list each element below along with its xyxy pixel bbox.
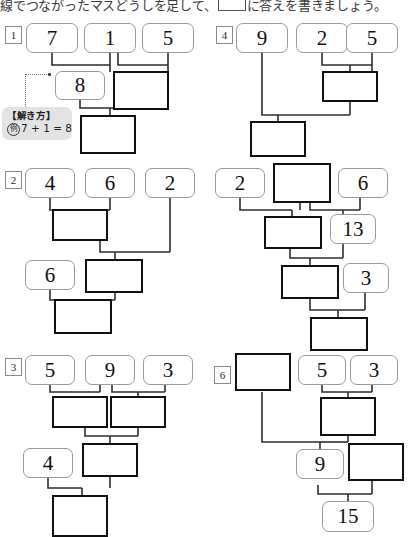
- p4-given-2: 5: [346, 23, 398, 53]
- p2-given-2: 2: [145, 168, 195, 198]
- p6-given-2: 9: [296, 449, 344, 479]
- p2-given-0: 4: [25, 168, 75, 198]
- p5-given-2: 13: [330, 214, 376, 244]
- wire-p1-c: [118, 53, 168, 65]
- p3-answer-1[interactable]: [110, 396, 166, 428]
- instruction-blank-box: [218, 0, 246, 11]
- p5-answer-3[interactable]: [310, 317, 368, 351]
- problem-number-6: 6: [214, 366, 231, 384]
- p4-answer-1[interactable]: [250, 121, 306, 157]
- hint-title: 【解き方】: [7, 110, 67, 121]
- p1-answer-0[interactable]: [113, 71, 169, 110]
- problem-number-2: 2: [5, 171, 22, 189]
- p4-given-1: 2: [296, 23, 348, 53]
- p2-given-1: 6: [85, 168, 135, 198]
- wire-p2-d: [100, 240, 170, 252]
- p5-given-0: 2: [215, 168, 265, 198]
- hint-leader-stem: [25, 74, 26, 107]
- p1-given-0: 7: [26, 23, 78, 53]
- p1-given-2: 5: [142, 23, 194, 53]
- wire-p5-g: [290, 248, 343, 258]
- problem-number-4: 4: [216, 26, 233, 44]
- wire-p4-b: [322, 53, 372, 65]
- p3-given-0: 5: [25, 355, 75, 385]
- p1-answer-1[interactable]: [80, 115, 136, 154]
- p3-given-2: 3: [143, 355, 193, 385]
- instruction-pre: 線でつながったマスどうしを足して、: [0, 0, 217, 13]
- p6-answer-1[interactable]: [320, 397, 376, 436]
- p3-given-3: 4: [23, 448, 73, 478]
- p3-answer-0[interactable]: [52, 396, 108, 428]
- wire-p6-h: [318, 485, 372, 494]
- p6-answer-2[interactable]: [348, 443, 404, 481]
- hint-example-marker: 例: [7, 123, 20, 136]
- p3-answer-3[interactable]: [52, 495, 108, 537]
- p1-given-1: 1: [84, 23, 136, 53]
- instruction-post: に答えを書きましょう。: [247, 0, 387, 13]
- wire-p6-a: [262, 392, 320, 442]
- p3-given-1: 9: [85, 355, 135, 385]
- p1-given-3: 8: [55, 71, 105, 100]
- wire-p3-i: [48, 478, 82, 488]
- hint-bubble: 【解き方】 例7 + 1 = 8: [2, 107, 72, 140]
- p6-given-1: 3: [350, 355, 398, 385]
- wire-p5-c: [310, 203, 360, 210]
- wire-p4-a: [262, 53, 316, 115]
- p3-answer-2[interactable]: [82, 443, 138, 477]
- p4-answer-0[interactable]: [322, 71, 378, 102]
- p5-answer-2[interactable]: [281, 265, 339, 299]
- wire-p5-j: [310, 298, 365, 310]
- problem-number-1: 1: [5, 26, 22, 44]
- hint-equation-line: 例7 + 1 = 8: [7, 122, 67, 136]
- p4-given-0: 9: [236, 23, 288, 53]
- p5-answer-0[interactable]: [273, 163, 331, 203]
- p6-given-3: 15: [322, 501, 374, 532]
- p5-given-3: 3: [343, 263, 389, 293]
- wire-p1-a: [52, 53, 110, 65]
- p2-answer-0[interactable]: [52, 209, 108, 241]
- wire-p3-f: [85, 427, 138, 436]
- p2-answer-1[interactable]: [85, 259, 143, 293]
- hint-equation: 7 + 1 = 8: [21, 122, 72, 134]
- problem-number-3: 3: [5, 358, 22, 376]
- p5-given-1: 6: [338, 168, 388, 198]
- p6-given-0: 5: [298, 355, 346, 385]
- hint-leader-arm: [25, 74, 47, 75]
- hint-leader-dot: [48, 73, 51, 76]
- p5-answer-1[interactable]: [264, 216, 322, 249]
- p6-answer-0[interactable]: [235, 353, 291, 391]
- p2-answer-2[interactable]: [54, 299, 112, 334]
- p2-given-3: 6: [25, 260, 75, 290]
- instruction-text: 線でつながったマスどうしを足して、に答えを書きましょう。: [0, 0, 416, 17]
